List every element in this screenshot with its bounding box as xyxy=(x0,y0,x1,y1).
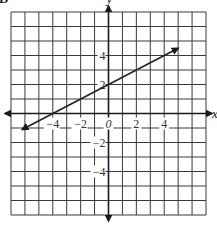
x-tick-label: −4 xyxy=(46,117,59,131)
problem-label: B xyxy=(0,0,8,7)
x-tick-label: 0 xyxy=(106,117,112,131)
y-tick-label: −4 xyxy=(93,165,106,179)
y-axis-letter: y xyxy=(105,0,113,6)
coordinate-plane: −4−202442−2−4xy xyxy=(0,0,217,226)
x-tick-label: 2 xyxy=(133,117,139,131)
x-tick-label: 4 xyxy=(161,117,167,131)
x-axis-letter: x xyxy=(211,106,217,121)
y-tick-label: 4 xyxy=(100,49,106,63)
x-tick-label: −2 xyxy=(74,117,87,131)
y-tick-label: −2 xyxy=(93,136,106,150)
